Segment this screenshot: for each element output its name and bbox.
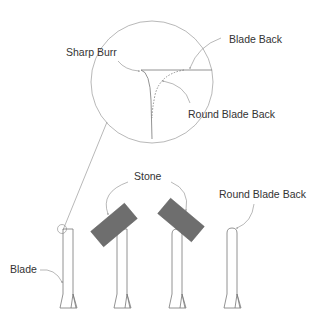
round-blade-back-arrow bbox=[237, 204, 254, 228]
round-blade-back-label: Round Blade Back bbox=[219, 188, 307, 200]
blade-2 bbox=[91, 203, 138, 308]
blade-back-label: Blade Back bbox=[229, 33, 283, 45]
blade-1 bbox=[58, 225, 78, 309]
round-blade-back-profile bbox=[152, 70, 184, 118]
stone-right bbox=[158, 198, 205, 242]
blade-4 bbox=[224, 228, 241, 308]
stone-label: Stone bbox=[134, 170, 162, 182]
magnifier-leader-line bbox=[63, 122, 107, 230]
blade-label: Blade bbox=[10, 263, 37, 275]
sharp-burr-profile bbox=[141, 70, 152, 139]
round-blade-back-detail-label: Round Blade Back bbox=[188, 108, 276, 120]
stone-left bbox=[91, 203, 138, 247]
round-blade-back-detail-arrow bbox=[163, 81, 190, 103]
round-blade-back-callout: Round Blade Back bbox=[219, 188, 307, 228]
blade-callout: Blade bbox=[10, 263, 62, 282]
blade-3 bbox=[158, 198, 205, 308]
sharp-burr-arrow bbox=[118, 61, 139, 71]
sharp-burr-label: Sharp Burr bbox=[66, 46, 117, 58]
blade-arrow bbox=[40, 270, 62, 282]
blade-sharpening-diagram: Sharp Burr Blade Back Round Blade Back S… bbox=[0, 0, 313, 322]
sharp-burr-callout: Sharp Burr bbox=[66, 46, 139, 71]
round-blade-back-detail-callout: Round Blade Back bbox=[163, 81, 276, 120]
